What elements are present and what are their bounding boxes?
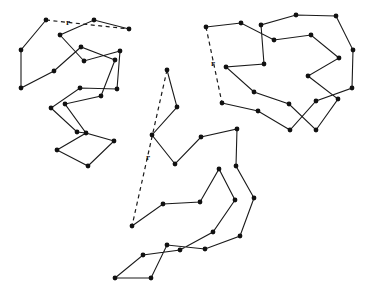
- edge-label: r: [146, 152, 150, 162]
- dashed-edge: [46, 20, 129, 29]
- graph-node: [217, 167, 222, 172]
- graph-node: [58, 33, 63, 38]
- graph-node: [272, 38, 277, 43]
- graph-node: [288, 128, 293, 133]
- graph-node: [99, 94, 104, 99]
- graph-node: [198, 200, 203, 205]
- graph-node: [233, 198, 238, 203]
- graph-node: [84, 131, 89, 136]
- graph-node: [199, 135, 204, 140]
- tour-path: [206, 15, 353, 130]
- graph-node: [130, 224, 135, 229]
- graph-node: [49, 106, 54, 111]
- graph-node: [351, 48, 356, 53]
- graph-node: [173, 162, 178, 167]
- graph-node: [259, 23, 264, 28]
- graph-node: [115, 87, 120, 92]
- graph-node: [63, 102, 68, 107]
- tour-path: [115, 70, 254, 278]
- graph-node: [337, 56, 342, 61]
- graph-node: [150, 133, 155, 138]
- graph-node: [175, 105, 180, 110]
- tour-diagram: rrr: [0, 0, 373, 295]
- graph-node: [112, 139, 117, 144]
- graph-node: [336, 97, 341, 102]
- right-tour: r: [204, 13, 356, 133]
- graph-node: [82, 59, 87, 64]
- graph-node: [314, 128, 319, 133]
- graph-node: [75, 130, 80, 135]
- tour-path: [21, 20, 129, 166]
- graph-node: [19, 86, 24, 91]
- graph-node: [86, 164, 91, 169]
- graph-node: [113, 276, 118, 281]
- graph-node: [234, 164, 239, 169]
- graph-node: [79, 45, 84, 50]
- edge-label: r: [66, 17, 70, 27]
- graph-node: [204, 25, 209, 30]
- graph-node: [203, 247, 208, 252]
- graph-node: [55, 148, 60, 153]
- graph-node: [306, 74, 311, 79]
- graph-node: [113, 58, 118, 63]
- graph-node: [252, 90, 257, 95]
- graph-node: [165, 68, 170, 73]
- graph-node: [220, 101, 225, 106]
- graph-node: [287, 102, 292, 107]
- graph-node: [19, 48, 24, 53]
- graph-node: [309, 33, 314, 38]
- graph-node: [235, 127, 240, 132]
- edge-label: r: [211, 58, 215, 68]
- graph-node: [238, 234, 243, 239]
- graph-node: [52, 69, 57, 74]
- graph-node: [178, 248, 183, 253]
- graph-node: [78, 86, 83, 91]
- graph-node: [239, 21, 244, 26]
- center-tour: r: [113, 68, 257, 281]
- graph-node: [149, 276, 154, 281]
- graph-node: [314, 99, 319, 104]
- graph-node: [256, 109, 261, 114]
- graph-node: [165, 243, 170, 248]
- graph-node: [127, 27, 132, 32]
- graph-node: [262, 62, 267, 67]
- diagram-canvas: rrr: [0, 0, 373, 295]
- graph-node: [92, 18, 97, 23]
- left-tour: r: [19, 17, 132, 168]
- graph-node: [224, 65, 229, 70]
- graph-node: [350, 86, 355, 91]
- graph-node: [252, 196, 257, 201]
- graph-node: [118, 49, 123, 54]
- graph-node: [44, 18, 49, 23]
- graph-node: [211, 230, 216, 235]
- tours-group: rrr: [19, 13, 356, 281]
- graph-node: [161, 202, 166, 207]
- graph-node: [294, 13, 299, 18]
- graph-node: [334, 14, 339, 19]
- graph-node: [141, 253, 146, 258]
